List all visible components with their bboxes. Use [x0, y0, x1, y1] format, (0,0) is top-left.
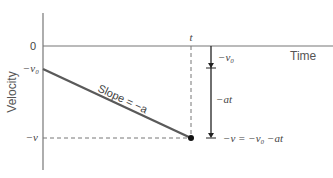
v-label: −v [26, 131, 38, 143]
equation-label: −v = −v₀ −at [223, 132, 284, 144]
t-label: t [189, 31, 193, 43]
arrow-top-label: −v₀ [218, 51, 234, 63]
end-point [188, 135, 194, 141]
y-axis-label: Velocity [5, 71, 19, 112]
arrow-mid-label: −at [216, 93, 233, 105]
velocity-line [43, 69, 191, 138]
arrow-head-top [208, 63, 214, 68]
zero-label: 0 [30, 40, 36, 52]
velocity-time-diagram: 0 −v₀ −v t Time Velocity Slope = −a −v₀ … [0, 0, 333, 178]
arrow-head-bottom [208, 133, 214, 138]
x-axis-label: Time [290, 49, 317, 63]
v0-label: −v₀ [23, 62, 39, 74]
